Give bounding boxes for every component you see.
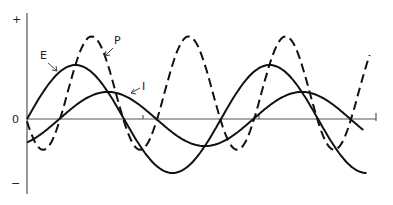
arrow-P-icon xyxy=(105,48,113,56)
y-label-plus: + xyxy=(12,13,21,26)
arrow-I-icon xyxy=(131,88,140,94)
series-label-I: I xyxy=(142,80,145,93)
series-label-E: E xyxy=(40,49,47,62)
series-label-P: P xyxy=(114,34,121,47)
chart: + 0 − E P I xyxy=(0,0,393,205)
series-P-line xyxy=(27,36,370,149)
y-label-minus: − xyxy=(11,177,20,190)
arrow-E-icon xyxy=(48,63,57,71)
y-label-zero: 0 xyxy=(12,113,19,126)
